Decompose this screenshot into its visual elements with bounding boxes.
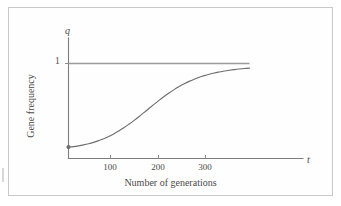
plot-canvas (0, 0, 341, 206)
y-tick-label-1: 1 (55, 57, 60, 67)
x-axis-variable-label: t (307, 155, 310, 165)
x-tick-label-100: 100 (95, 163, 125, 172)
x-tick-label-200: 200 (143, 163, 173, 172)
curve-start-marker (66, 145, 70, 149)
x-axis-title: Number of generations (0, 178, 341, 188)
y-axis-title: Gene frequency (26, 51, 36, 161)
x-tick-label-300: 300 (190, 163, 220, 172)
gene-frequency-curve (69, 68, 250, 147)
figure-root: q t 1 100 200 300 Number of generations … (0, 0, 341, 206)
y-axis-variable-label: q (65, 26, 70, 36)
